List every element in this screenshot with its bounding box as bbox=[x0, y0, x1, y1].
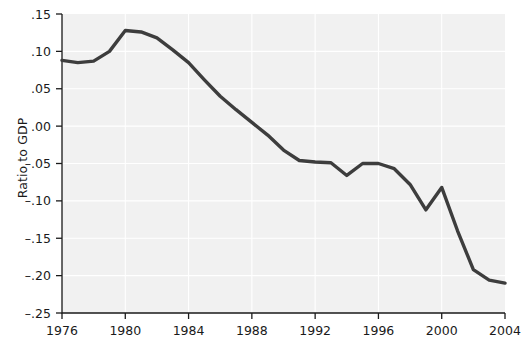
x-tick-label: 1980 bbox=[109, 323, 141, 338]
y-tick-label: .10 bbox=[31, 44, 51, 59]
chart-figure: Ratio to GDP .15.10.05.00–.05–.10–.15–.2… bbox=[0, 0, 522, 355]
x-tick-label: 1984 bbox=[173, 323, 205, 338]
y-tick-label: –.15 bbox=[25, 231, 51, 246]
x-tick-label: 1976 bbox=[46, 323, 78, 338]
x-tick-label: 1996 bbox=[363, 323, 395, 338]
y-tick-label: –.20 bbox=[25, 268, 51, 283]
x-tick-label: 1988 bbox=[236, 323, 268, 338]
y-tick-label: –.10 bbox=[25, 193, 51, 208]
x-tick-label: 1992 bbox=[299, 323, 331, 338]
line-chart-canvas: .15.10.05.00–.05–.10–.15–.20–.25 1976198… bbox=[0, 0, 522, 355]
y-tick-label: .00 bbox=[31, 119, 51, 134]
y-tick-label: –.05 bbox=[25, 156, 51, 171]
x-axis-ticks: 19761980198419881992199620002004 bbox=[46, 313, 521, 338]
x-tick-label: 2000 bbox=[426, 323, 458, 338]
y-tick-label: –.25 bbox=[25, 306, 51, 321]
y-axis-ticks: .15.10.05.00–.05–.10–.15–.20–.25 bbox=[25, 7, 62, 321]
x-tick-label: 2004 bbox=[489, 323, 521, 338]
y-tick-label: .05 bbox=[31, 81, 51, 96]
y-tick-label: .15 bbox=[31, 7, 51, 22]
